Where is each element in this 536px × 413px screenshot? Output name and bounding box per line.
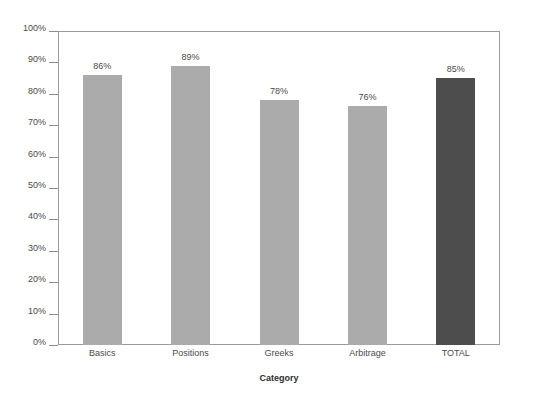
y-axis-tick-label: 80%: [28, 87, 46, 96]
bar-group: 89%: [171, 31, 210, 345]
bar-value-label: 78%: [270, 86, 288, 96]
y-axis-tick-label: 60%: [28, 150, 46, 159]
y-axis-tick-mark: [49, 219, 58, 220]
y-axis-tick-mark: [49, 31, 58, 32]
y-axis-tick-label: 90%: [28, 55, 46, 64]
x-axis-category-label: Arbitrage: [349, 348, 386, 359]
y-axis: 0%10%20%30%40%50%60%70%80%90%100%: [0, 31, 58, 345]
y-axis-tick-mark: [49, 157, 58, 158]
bar: [83, 75, 122, 345]
bar-group: 76%: [348, 31, 387, 345]
y-axis-tick-mark: [49, 125, 58, 126]
bar-value-label: 86%: [93, 61, 111, 71]
bar: [436, 78, 475, 345]
y-axis-tick-mark: [49, 314, 58, 315]
x-axis-category-label: Greeks: [264, 348, 293, 359]
bar-group: 85%: [436, 31, 475, 345]
y-axis-tick-label: 0%: [33, 338, 46, 347]
y-axis-tick-label: 10%: [28, 307, 46, 316]
y-axis-tick-label: 100%: [23, 24, 46, 33]
x-axis-category-label: Basics: [89, 348, 116, 359]
y-axis-tick-mark: [49, 62, 58, 63]
x-axis-title: Category: [58, 373, 500, 383]
x-axis-category-label: Positions: [172, 348, 209, 359]
y-axis-tick-mark: [49, 251, 58, 252]
bar-value-label: 85%: [447, 64, 465, 74]
bar: [171, 66, 210, 345]
bar-group: 86%: [83, 31, 122, 345]
y-axis-tick-label: 20%: [28, 275, 46, 284]
y-axis-tick-label: 40%: [28, 212, 46, 221]
bar: [260, 100, 299, 345]
bar: [348, 106, 387, 345]
bar-group: 78%: [260, 31, 299, 345]
y-axis-tick-label: 70%: [28, 118, 46, 127]
x-axis: BasicsPositionsGreeksArbitrageTOTAL: [58, 348, 500, 364]
y-axis-tick-mark: [49, 188, 58, 189]
bar-value-label: 89%: [182, 52, 200, 62]
x-axis-category-label: TOTAL: [442, 348, 470, 359]
y-axis-tick-mark: [49, 345, 58, 346]
y-axis-tick-mark: [49, 282, 58, 283]
y-axis-tick-label: 50%: [28, 181, 46, 190]
bar-value-label: 76%: [358, 92, 376, 102]
y-axis-tick-label: 30%: [28, 244, 46, 253]
bar-chart: 0%10%20%30%40%50%60%70%80%90%100% 86%89%…: [0, 0, 536, 413]
bars-layer: 86%89%78%76%85%: [58, 31, 500, 345]
y-axis-tick-mark: [49, 94, 58, 95]
